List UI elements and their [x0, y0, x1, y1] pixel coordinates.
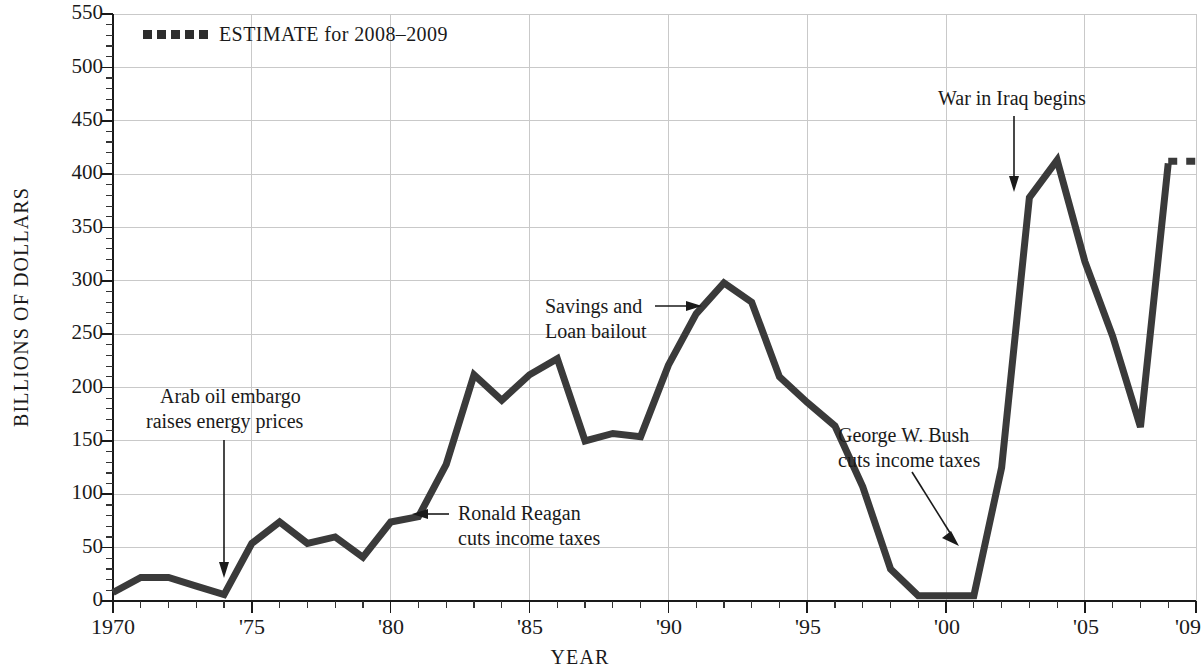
y-tick-label-300: 300 [72, 267, 104, 291]
deficit-series-line [113, 160, 1168, 595]
annotation-bush-arrowhead [942, 531, 959, 546]
y-tick-label-250: 250 [72, 320, 104, 344]
x-tick-label-1990: '90 [656, 614, 682, 639]
annotation-savings-loan: Savings and Loan bailout [545, 295, 702, 342]
x-tick-label-1980: '80 [378, 614, 404, 639]
x-tick-label-1970: 1970 [91, 614, 135, 639]
x-tick-label-2009: '09 [1175, 614, 1201, 639]
annotation-bush-line2: cuts income taxes [838, 449, 980, 471]
x-tick-label-1985: '85 [517, 614, 543, 639]
y-tick-marks-group [101, 14, 113, 601]
y-tick-label-400: 400 [72, 160, 104, 184]
annotation-iraq-arrowhead [1009, 176, 1019, 192]
x-tick-labels-group: 1970 '75 '80 '85 '90 '95 '00 '05 '09 [91, 614, 1201, 639]
legend-dotted-swatch-icon [143, 30, 208, 39]
annotation-iraq-line1: War in Iraq begins [938, 87, 1086, 110]
annotation-arab-line2: raises energy prices [146, 410, 304, 433]
annotation-reagan-line1: Ronald Reagan [458, 502, 581, 525]
x-tick-label-1975: '75 [239, 614, 265, 639]
y-tick-label-500: 500 [72, 54, 104, 78]
y-tick-label-150: 150 [72, 427, 104, 451]
y-tick-label-200: 200 [72, 374, 104, 398]
annotation-arab-line1: Arab oil embargo [160, 385, 301, 408]
y-tick-label-450: 450 [72, 107, 104, 131]
legend-label-estimate: ESTIMATE for 2008–2009 [219, 23, 448, 45]
y-tick-labels-group: 0 50 100 150 200 250 300 350 400 450 500… [72, 0, 104, 611]
y-tick-label-0: 0 [93, 587, 104, 611]
x-axis-title: YEAR [551, 646, 610, 668]
y-tick-label-550: 550 [72, 0, 104, 24]
x-tick-label-2000: '00 [934, 614, 960, 639]
y-axis-title: BILLIONS OF DOLLARS [10, 187, 32, 427]
annotation-ronald-reagan: Ronald Reagan cuts income taxes [412, 502, 600, 549]
deficit-line-chart: 0 50 100 150 200 250 300 350 400 450 500… [0, 0, 1202, 671]
annotation-arab-arrowhead [219, 562, 229, 578]
x-tick-label-1995: '95 [795, 614, 821, 639]
y-tick-label-350: 350 [72, 214, 104, 238]
x-tick-label-2005: '05 [1073, 614, 1099, 639]
chart-canvas: 0 50 100 150 200 250 300 350 400 450 500… [0, 0, 1202, 671]
y-tick-label-100: 100 [72, 480, 104, 504]
y-tick-label-50: 50 [82, 534, 103, 558]
annotation-snl-line2: Loan bailout [545, 320, 647, 342]
x-tick-marks-group [113, 601, 1196, 613]
annotation-arab-oil-embargo: Arab oil embargo raises energy prices [146, 385, 304, 578]
annotation-snl-line1: Savings and [545, 295, 642, 318]
legend: ESTIMATE for 2008–2009 [143, 23, 448, 45]
annotation-reagan-line2: cuts income taxes [458, 527, 600, 549]
annotation-bush-line1: George W. Bush [838, 424, 969, 447]
